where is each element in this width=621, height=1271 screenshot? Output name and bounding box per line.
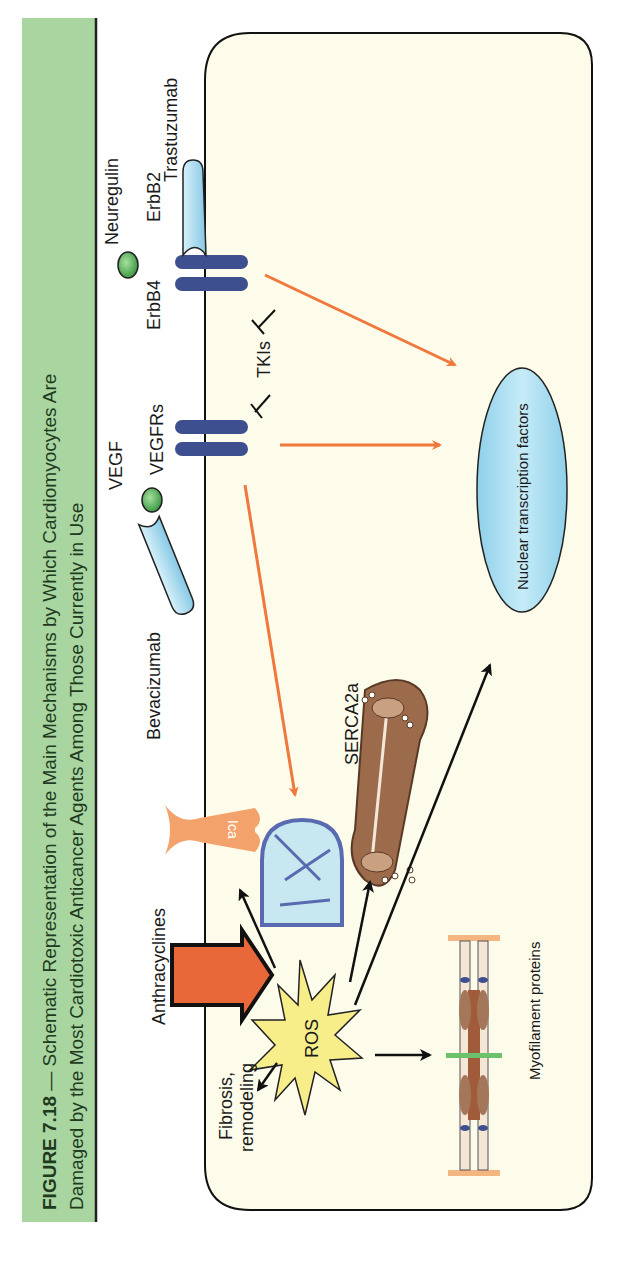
vegf-label: VEGF — [106, 441, 126, 490]
neuregulin-label: Neuregulin — [102, 158, 122, 245]
mitochondrion-icon — [262, 820, 342, 925]
bevacizumab-label: Bevacizumab — [144, 632, 164, 740]
vegfrs-label: VEGFRs — [147, 404, 167, 475]
ros-label: ROS — [302, 1019, 322, 1058]
tkis-label: TKIs — [254, 341, 274, 378]
figure-title-line2: Damaged by the Most Cardiotoxic Anticanc… — [66, 503, 87, 1210]
figure-title-band: FIGURE 7.18 — Schematic Representation o… — [22, 18, 96, 1222]
trastuzumab-antibody-icon — [183, 160, 206, 255]
bevacizumab-antibody-icon — [139, 516, 197, 617]
myofilament-label: Myofilament proteins — [526, 942, 543, 1080]
ica-label: Ica — [225, 820, 241, 839]
serca2a-label: SERCA2a — [342, 682, 362, 765]
fibrosis-label-line1: Fibrosis, — [216, 1072, 236, 1140]
figure-title-line1: FIGURE 7.18 — Schematic Representation o… — [39, 374, 60, 1210]
erbb4-label: ErbB4 — [144, 280, 164, 330]
figure-canvas: FIGURE 7.18 — Schematic Representation o… — [0, 0, 621, 1271]
nucleus-label: Nuclear transcription factors — [514, 403, 531, 590]
anthracyclines-label: Anthracyclines — [149, 908, 169, 1025]
vegf-ligand-icon — [142, 488, 162, 512]
neuregulin-ligand-icon — [118, 252, 138, 278]
trastuzumab-label: Trastuzumab — [161, 78, 181, 182]
fibrosis-label-line2: remodeling — [237, 1063, 257, 1152]
